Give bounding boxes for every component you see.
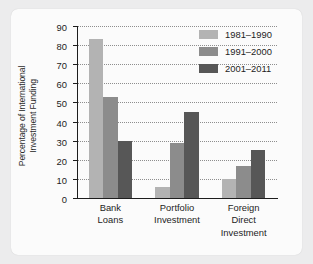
x-axis-category-label-line: Direct bbox=[201, 214, 287, 226]
x-axis-line bbox=[77, 198, 278, 199]
y-axis-tick-label: 80 bbox=[57, 41, 67, 52]
bar bbox=[103, 97, 118, 198]
y-axis-tick-label: 70 bbox=[57, 60, 67, 71]
bar bbox=[184, 112, 199, 198]
bar bbox=[155, 187, 170, 198]
bar bbox=[118, 141, 133, 198]
legend-swatch bbox=[199, 30, 218, 39]
y-axis-label-line-1: Percentage of International bbox=[17, 66, 28, 167]
legend-item: 1991–2000 bbox=[199, 44, 299, 59]
y-axis-tick-label: 20 bbox=[57, 155, 67, 166]
legend-label: 1981–1990 bbox=[225, 29, 272, 40]
legend: 1981–19901991–20002001–2011 bbox=[199, 27, 299, 78]
legend-item: 1981–1990 bbox=[199, 27, 299, 42]
legend-label: 2001–2011 bbox=[225, 63, 271, 74]
x-axis-category-label: ForeignDirectInvestment bbox=[201, 202, 287, 239]
y-axis-tick-label: 60 bbox=[57, 79, 67, 90]
y-axis-tick-label: 10 bbox=[57, 174, 67, 185]
y-axis-tick-label: 30 bbox=[57, 136, 67, 147]
x-axis-category-labels: BankLoansPortfolioInvestmentForeignDirec… bbox=[77, 202, 283, 250]
bar bbox=[251, 150, 266, 198]
x-axis-category-label-line: Foreign bbox=[201, 202, 287, 214]
y-axis-tick-label: 40 bbox=[57, 117, 67, 128]
y-axis-label: Percentage of International Investment F… bbox=[11, 15, 45, 205]
legend-item: 2001–2011 bbox=[199, 61, 299, 76]
legend-label: 1991–2000 bbox=[225, 46, 272, 57]
bar bbox=[170, 143, 185, 198]
legend-swatch bbox=[199, 64, 218, 73]
chart-card: Percentage of International Investment F… bbox=[11, 9, 302, 255]
x-axis-category-label-line: Investment bbox=[201, 227, 287, 239]
legend-swatch bbox=[199, 47, 218, 56]
y-axis-tick-label: 50 bbox=[57, 98, 67, 109]
y-axis-tick-label: 0 bbox=[62, 194, 67, 205]
y-axis-label-line-2: Investment Funding bbox=[28, 79, 39, 153]
bar bbox=[236, 166, 251, 198]
y-axis-tick: 0 bbox=[73, 198, 78, 199]
y-axis-tick-label: 90 bbox=[57, 22, 67, 33]
bar-chart: Percentage of International Investment F… bbox=[11, 9, 302, 255]
bar bbox=[89, 39, 104, 198]
bar bbox=[222, 179, 237, 198]
